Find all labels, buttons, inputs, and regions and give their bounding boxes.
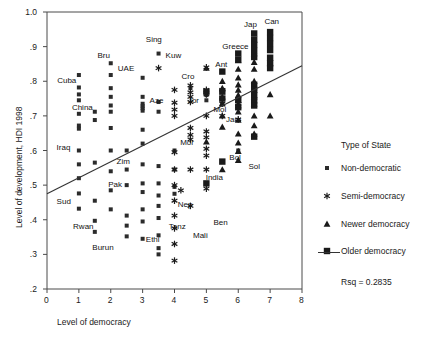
data-point: [235, 139, 242, 145]
data-point: [93, 118, 97, 122]
data-point: [141, 128, 145, 132]
data-point: [157, 216, 161, 220]
data-point: [77, 207, 81, 211]
data-point: [125, 214, 129, 218]
data-point: [267, 41, 273, 47]
data-point: [172, 197, 178, 204]
data-point: [93, 161, 97, 165]
data-point: [188, 166, 194, 173]
data-point: [251, 30, 257, 36]
point-label: Mor: [180, 139, 194, 147]
data-point: [157, 181, 161, 185]
data-point: [204, 152, 210, 159]
data-point: [172, 87, 178, 94]
data-point: [141, 95, 145, 99]
data-point: [267, 35, 273, 41]
data-point: [251, 48, 257, 54]
data-point: [219, 95, 225, 101]
data-point: [251, 112, 258, 118]
data-point: [172, 257, 178, 264]
data-point: [125, 224, 129, 228]
data-point: [204, 128, 210, 135]
legend-item-semi-democracy[interactable]: Semi-democracy: [341, 191, 405, 201]
data-point: [267, 65, 273, 71]
point-label: Greece: [222, 43, 248, 51]
y-tick-label: .9: [30, 42, 37, 52]
legend-item-newer-democracy[interactable]: Newer democracy: [341, 219, 410, 229]
legend-glyph: [324, 248, 330, 254]
data-point: [157, 52, 161, 56]
y-axis-title: Level of development, HDI 1998: [14, 107, 24, 228]
data-point: [141, 181, 145, 185]
legend-title: Type of State: [341, 140, 391, 150]
data-point: [251, 54, 257, 60]
data-point: [109, 169, 113, 173]
point-label: Jor: [188, 97, 199, 105]
data-point: [267, 29, 273, 35]
point-label: Mali: [193, 232, 208, 240]
y-tick-label: .3: [30, 249, 37, 259]
data-point: [109, 126, 113, 130]
data-point: [172, 241, 178, 248]
data-point: [219, 68, 225, 74]
data-point: [251, 133, 257, 139]
data-point: [125, 149, 129, 153]
point-label: UAE: [118, 65, 134, 73]
data-point: [172, 149, 178, 156]
point-label: Iraq: [57, 144, 71, 152]
data-point: [141, 190, 145, 194]
data-point: [77, 92, 81, 96]
data-point: [157, 194, 161, 198]
data-point: [157, 164, 161, 168]
data-point: [77, 98, 81, 102]
point-label: Ben: [213, 219, 227, 227]
point-label: Sol: [249, 163, 261, 171]
data-point: [235, 74, 242, 80]
data-point: [77, 85, 81, 89]
x-tick-label: 8: [299, 295, 304, 305]
x-tick-label: 5: [203, 295, 208, 305]
data-point: [157, 204, 161, 208]
legend-item-older-democracy[interactable]: Older democracy: [341, 246, 406, 256]
legend-marker-asterisk: [321, 190, 333, 202]
y-tick-label: .4: [30, 215, 37, 225]
data-point: [93, 199, 97, 203]
data-point: [219, 78, 226, 84]
data-point: [178, 187, 184, 194]
legend-item-non-democratic[interactable]: Non-democratic: [341, 163, 401, 173]
point-label: Bol: [229, 154, 241, 162]
data-point: [125, 168, 129, 172]
data-point: [157, 110, 161, 114]
data-point: [219, 166, 226, 172]
point-label: Cro: [182, 73, 195, 81]
data-point: [267, 55, 273, 61]
data-point: [172, 182, 178, 189]
point-label: Sing: [146, 36, 162, 44]
data-point: [188, 82, 194, 89]
legend-regression-line-swatch: [318, 252, 340, 253]
data-point: [173, 192, 177, 196]
data-point: [156, 65, 162, 72]
data-point: [251, 122, 258, 128]
rsq-label: Rsq = 0.2835: [341, 277, 392, 287]
data-point: [93, 110, 97, 114]
data-point: [235, 130, 242, 136]
data-point: [267, 112, 274, 118]
data-point: [109, 103, 113, 107]
data-point: [141, 109, 145, 113]
data-point: [157, 246, 161, 250]
data-point: [267, 47, 273, 53]
y-tick-label: .7: [30, 111, 37, 121]
point-label: Burun: [92, 244, 113, 252]
x-tick-label: 6: [235, 295, 240, 305]
data-point: [141, 207, 145, 211]
point-label: Rwan: [73, 223, 93, 231]
data-point: [157, 252, 161, 256]
x-axis-title: Level of democracy: [57, 317, 131, 327]
y-tick-label: 1.0: [25, 7, 37, 17]
x-tick-label: 1: [76, 295, 81, 305]
y-tick-label: .2: [30, 284, 37, 294]
point-label: Jam: [226, 116, 241, 124]
data-point: [219, 158, 225, 164]
data-point: [77, 149, 81, 153]
